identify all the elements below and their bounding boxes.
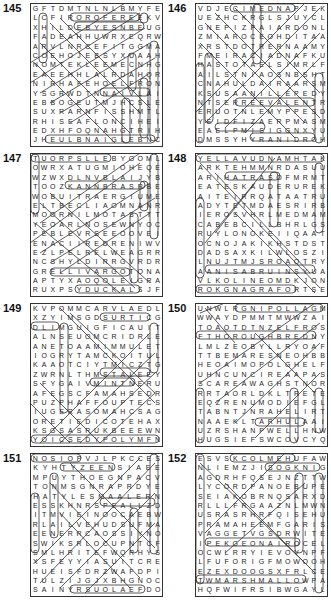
grid-cell: U [248, 332, 257, 341]
grid-cell: N [110, 117, 119, 126]
grid-cell: S [283, 379, 292, 388]
grid-cell: I [301, 529, 310, 538]
grid-cell: C [145, 539, 154, 548]
puzzle-number: 152 [168, 452, 186, 464]
grid-cell: U [83, 98, 92, 107]
grid-cell: A [66, 107, 75, 116]
grid-cell: R [136, 257, 145, 266]
grid-cell: N [275, 351, 284, 360]
grid-cell: C [153, 576, 162, 585]
grid-cell: N [101, 89, 110, 98]
grid-cell: D [257, 389, 266, 398]
grid-cell: E [127, 32, 136, 41]
grid-cell: S [222, 70, 231, 79]
grid-row: WOBUITRAERGIUME [31, 192, 162, 201]
grid-cell: M [145, 192, 154, 201]
grid-cell: W [213, 548, 222, 557]
grid-cell: G [136, 42, 145, 51]
grid-cell: O [110, 510, 119, 519]
grid-cell: U [40, 398, 49, 407]
grid-cell: S [301, 163, 310, 172]
grid-cell: O [48, 220, 57, 229]
grid-cell: T [248, 42, 257, 51]
grid-cell: Y [31, 220, 40, 229]
grid-cell: E [266, 473, 275, 482]
grid-cell: N [31, 454, 40, 463]
grid-cell: A [31, 42, 40, 51]
grid-cell: R [248, 173, 257, 182]
grid-cell: L [83, 154, 92, 163]
grid-cell: S [127, 389, 136, 398]
grid-cell: J [240, 407, 249, 416]
grid-cell: C [205, 548, 214, 557]
grid-cell: N [257, 323, 266, 332]
grid-cell: I [127, 192, 136, 201]
grid-cell: G [257, 13, 266, 22]
grid-cell: O [66, 454, 75, 463]
grid-cell: U [196, 370, 205, 379]
grid-cell: G [66, 98, 75, 107]
grid-cell: Z [222, 342, 231, 351]
grid-cell: F [213, 585, 222, 594]
grid-row: RHISEAFLONCIHEI [31, 117, 162, 126]
grid-cell: A [92, 304, 101, 313]
grid-cell: V [196, 4, 205, 13]
grid-cell: B [101, 182, 110, 191]
grid-cell: O [40, 435, 49, 444]
grid-cell: O [283, 557, 292, 566]
grid-cell: H [310, 510, 319, 519]
grid-cell: O [75, 13, 84, 22]
grid-cell: R [231, 32, 240, 41]
grid-cell: L [153, 154, 162, 163]
grid-cell: R [196, 285, 205, 294]
grid-cell: A [257, 70, 266, 79]
grid-cell: M [240, 126, 249, 135]
grid-cell: X [153, 417, 162, 426]
grid-cell: T [118, 42, 127, 51]
grid-cell: N [127, 239, 136, 248]
grid-cell: H [205, 370, 214, 379]
grid-cell: E [301, 89, 310, 98]
grid-cell: I [257, 89, 266, 98]
grid-cell: N [83, 173, 92, 182]
grid-cell: F [318, 60, 327, 69]
grid-cell: A [257, 173, 266, 182]
grid-cell: D [31, 323, 40, 332]
grid-cell: E [118, 426, 127, 435]
grid-cell: N [213, 267, 222, 276]
grid-cell: E [83, 51, 92, 60]
grid-cell: F [283, 567, 292, 576]
grid-cell: P [48, 304, 57, 313]
grid-cell: E [222, 351, 231, 360]
grid-cell: V [48, 42, 57, 51]
grid-cell: M [318, 210, 327, 219]
grid-cell: R [196, 501, 205, 510]
grid-row: XSFEYYIASUITCRE [31, 557, 162, 566]
grid-cell: O [101, 398, 110, 407]
grid-cell: R [145, 557, 154, 566]
grid-cell: I [205, 70, 214, 79]
grid-cell: O [92, 407, 101, 416]
grid-cell: U [110, 313, 119, 322]
grid-cell: T [240, 173, 249, 182]
grid-cell: A [257, 23, 266, 32]
grid-cell: N [248, 426, 257, 435]
grid-cell: G [57, 379, 66, 388]
grid-cell: E [127, 135, 136, 144]
grid-cell: S [115, 463, 124, 472]
grid-cell: S [318, 520, 327, 529]
grid-cell: E [310, 4, 319, 13]
grid-cell: A [196, 70, 205, 79]
grid-cell: R [257, 285, 266, 294]
grid-cell: N [31, 60, 40, 69]
grid-cell: W [153, 510, 162, 519]
grid-cell: T [145, 210, 154, 219]
grid-cell: R [213, 426, 222, 435]
grid-cell: P [310, 482, 319, 491]
grid-row: UZRSHANPWELLHNW [196, 426, 327, 435]
grid-cell: E [136, 510, 145, 519]
grid-cell: F [240, 585, 249, 594]
grid-cell: R [301, 323, 310, 332]
grid-cell: E [48, 342, 57, 351]
grid-cell: P [57, 398, 66, 407]
